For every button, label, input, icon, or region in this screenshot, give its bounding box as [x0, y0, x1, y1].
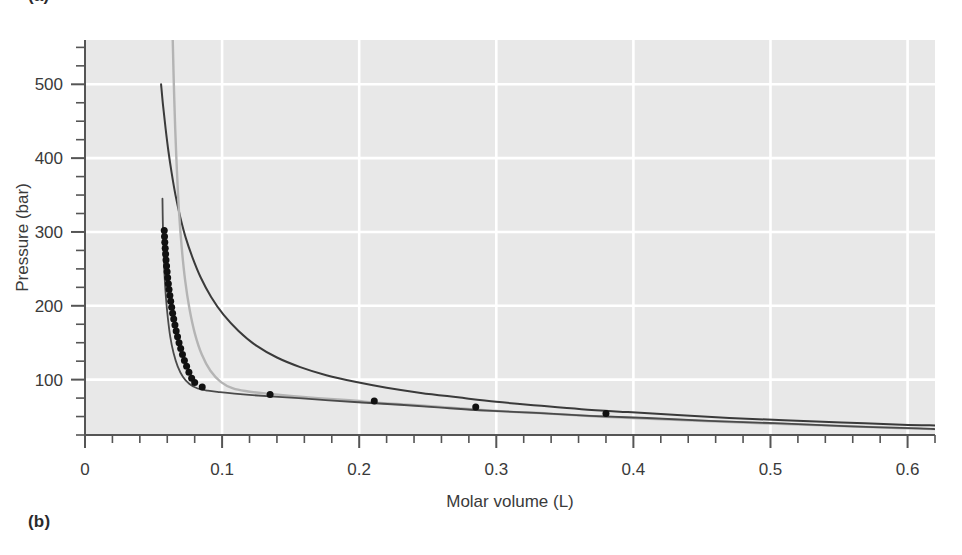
data-point-marker [167, 298, 174, 305]
data-point-marker [199, 384, 206, 391]
panel-label-a: (a) [28, 0, 49, 6]
y-axis-title: Pressure (bar) [13, 183, 32, 292]
x-tick-label: 0 [80, 460, 89, 479]
data-point-marker [164, 268, 171, 275]
data-point-marker [169, 310, 176, 317]
data-point-marker [602, 410, 609, 417]
x-axis-title: Molar volume (L) [446, 492, 574, 511]
data-point-marker [191, 379, 198, 386]
data-point-marker [164, 274, 171, 281]
x-tick-label: 0.3 [484, 460, 508, 479]
data-point-marker [371, 398, 378, 405]
data-point-marker [173, 327, 180, 334]
data-point-marker [179, 351, 186, 358]
data-point-marker [171, 321, 178, 328]
y-tick-label: 500 [35, 75, 63, 94]
chart-plot: 00.10.20.30.40.50.6Molar volume (L)10020… [0, 0, 962, 555]
data-point-marker [166, 292, 173, 299]
data-point-marker [174, 333, 181, 340]
data-point-marker [170, 316, 177, 323]
y-tick-label: 200 [35, 297, 63, 316]
data-point-marker [176, 339, 183, 346]
data-point-marker [177, 345, 184, 352]
data-point-marker [472, 403, 479, 410]
x-tick-label: 0.5 [759, 460, 783, 479]
x-tick-label: 0.1 [210, 460, 234, 479]
data-point-marker [168, 304, 175, 311]
plot-background [85, 40, 935, 435]
data-point-marker [166, 286, 173, 293]
data-point-marker [165, 280, 172, 287]
panel-label-b: (b) [28, 512, 50, 532]
data-point-marker [163, 257, 170, 264]
figure-container: (a) 00.10.20.30.40.50.6Molar volume (L)1… [0, 0, 962, 555]
y-tick-label: 400 [35, 149, 63, 168]
x-tick-label: 0.6 [896, 460, 920, 479]
x-tick-label: 0.4 [622, 460, 646, 479]
y-tick-label: 100 [35, 371, 63, 390]
data-point-marker [267, 391, 274, 398]
x-tick-label: 0.2 [347, 460, 371, 479]
y-tick-label: 300 [35, 223, 63, 242]
